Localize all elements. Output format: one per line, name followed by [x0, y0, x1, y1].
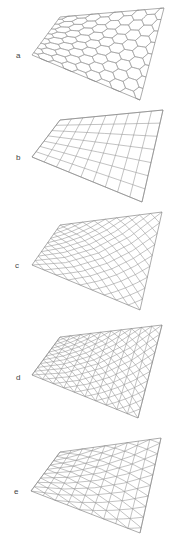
panel-label-e: e [14, 488, 18, 496]
lattice-panel-b [32, 110, 163, 202]
lattice-panel-c [32, 212, 162, 310]
lattice-canvas [0, 0, 169, 547]
lattice-panel-a [32, 8, 164, 100]
panel-label-c: c [15, 262, 19, 270]
panel-label-b: b [16, 154, 20, 162]
lattice-panel-d [32, 325, 162, 418]
panel-label-a: a [16, 52, 20, 60]
panel-outline-a [32, 8, 164, 100]
lattice-panel-e [31, 438, 161, 533]
lattice-figure: a b c d e [0, 0, 169, 547]
panel-label-d: d [16, 374, 20, 382]
panel-outline-e [31, 438, 161, 533]
